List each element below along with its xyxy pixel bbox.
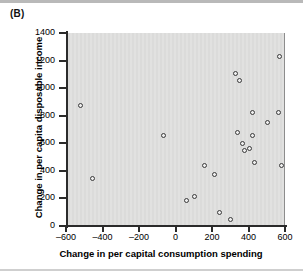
scatter-point <box>161 133 166 138</box>
x-tick <box>175 225 177 232</box>
x-axis-title: Change in per capital consumption spendi… <box>30 248 292 259</box>
scatter-point <box>228 217 233 222</box>
x-tick <box>248 225 250 232</box>
scatter-point <box>240 141 245 146</box>
panel-label: (B) <box>10 8 24 19</box>
scatter-point <box>233 71 238 76</box>
x-tick-label: 0 <box>156 232 196 242</box>
x-tick-label: 600 <box>265 232 303 242</box>
y-tick <box>59 87 67 89</box>
y-tick-label: 600 <box>15 137 55 147</box>
scan-edge-top <box>0 0 303 3</box>
x-tick <box>211 225 213 232</box>
x-tick-label: –600 <box>46 232 86 242</box>
x-axis-line <box>66 225 287 227</box>
y-tick <box>59 170 67 172</box>
x-tick-label: –200 <box>119 232 159 242</box>
y-tick <box>59 115 67 117</box>
y-tick <box>59 197 67 199</box>
y-tick-label: 400 <box>15 165 55 175</box>
y-tick <box>59 60 67 62</box>
scatter-point <box>78 103 83 108</box>
scatter-point <box>247 146 252 151</box>
scatter-point <box>252 160 257 165</box>
y-tick-label: 1200 <box>15 55 55 65</box>
scatter-point <box>279 163 284 168</box>
x-tick-label: –400 <box>83 232 123 242</box>
y-tick <box>59 32 67 34</box>
y-tick-label: 1400 <box>15 27 55 37</box>
scatter-point <box>192 194 197 199</box>
x-tick <box>284 225 286 232</box>
scatter-point <box>265 120 270 125</box>
scatter-point <box>90 176 95 181</box>
y-tick-label: 800 <box>15 110 55 120</box>
scatter-point <box>250 110 255 115</box>
x-tick <box>65 225 67 232</box>
plot-area <box>66 33 285 226</box>
x-tick <box>102 225 104 232</box>
y-tick-label: 0 <box>15 220 55 230</box>
scatter-point <box>202 163 207 168</box>
y-tick <box>59 142 67 144</box>
y-tick-label: 200 <box>15 192 55 202</box>
x-tick <box>138 225 140 232</box>
x-tick-label: 400 <box>229 232 269 242</box>
figure-panel-b: (B) Change in per capita disposable inco… <box>0 0 303 271</box>
x-tick-label: 200 <box>192 232 232 242</box>
y-tick-label: 1000 <box>15 82 55 92</box>
scatter-point <box>235 130 240 135</box>
